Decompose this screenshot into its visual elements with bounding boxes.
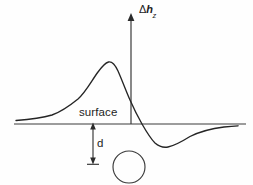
buried-sphere-shape: [113, 151, 145, 183]
anomaly-curve: [16, 62, 238, 147]
magnetic-anomaly-figure: surface d Δhz: [0, 0, 253, 185]
y-axis-subscript-glyph: z: [153, 11, 157, 20]
surface-label: surface: [79, 107, 117, 119]
y-axis-label: Δhz: [139, 4, 157, 18]
figure-canvas: [0, 0, 253, 185]
depth-arrow-down-arrowhead-icon: [90, 158, 96, 165]
vertical-axis-arrowhead-icon: [128, 13, 135, 21]
depth-label: d: [97, 138, 103, 150]
